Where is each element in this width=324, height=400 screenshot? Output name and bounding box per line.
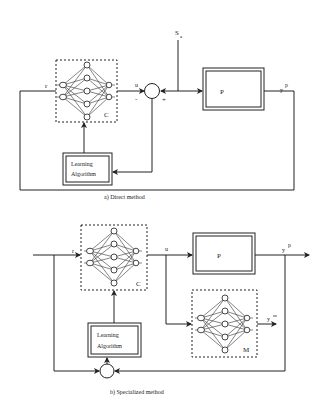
controller-label-a: C [104, 111, 109, 119]
model-label: M [243, 346, 250, 354]
learning-label-1a: Learning [71, 161, 93, 167]
specialized-method-diagram [33, 225, 309, 378]
reference-label-b: r [72, 248, 74, 254]
control-label-b: u [165, 246, 168, 252]
caption-b: b) Specialized method [110, 389, 164, 396]
learning-label-2b: Algorithm [97, 343, 122, 349]
plant-block-a [203, 68, 264, 110]
direct-method-labels: r u - + S a P y p C Learning Algorithm a… [45, 29, 288, 201]
learning-label-1b: Learning [97, 332, 119, 338]
disturbance-label: S [175, 29, 179, 37]
neural-network-icon [84, 228, 142, 286]
output-label-b: y [282, 247, 285, 253]
error-line-a [113, 99, 152, 172]
neural-network-icon [195, 295, 253, 353]
plant-block-b [193, 233, 255, 274]
plus-sign: + [162, 96, 166, 104]
control-diagrams: r u - + S a P y p C Learning Algorithm a… [0, 0, 324, 400]
minus-sign: - [135, 95, 138, 103]
output-superscript-a: p [285, 82, 288, 88]
learning-block-b [88, 323, 141, 357]
reference-label: r [45, 82, 48, 90]
learning-label-2a: Algorithm [71, 171, 96, 177]
plant-label-a: P [220, 88, 224, 96]
output-label-a: y [280, 87, 283, 93]
reference-feedback-line [20, 91, 294, 190]
model-output-superscript: m [273, 313, 277, 318]
model-output-label: y [267, 316, 270, 322]
caption-a: a) Direct method [104, 194, 145, 201]
learning-block-a [63, 153, 112, 185]
summing-junction-a [145, 84, 160, 99]
direct-method-diagram [20, 40, 294, 190]
plant-label-b: P [217, 252, 221, 260]
control-label: u [135, 82, 138, 88]
control-to-model-line [166, 255, 191, 324]
controller-label-b: C [136, 280, 141, 288]
specialized-method-labels: r u P y p C M y m Learning Algorithm b) … [72, 242, 291, 396]
summing-junction-b [100, 364, 114, 378]
output-superscript-b: p [288, 242, 291, 248]
disturbance-subscript: a [180, 34, 183, 39]
